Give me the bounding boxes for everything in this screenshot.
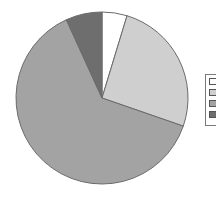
chart-legend bbox=[205, 74, 216, 126]
legend-swatch-3 bbox=[209, 100, 216, 107]
legend-swatch-2 bbox=[209, 89, 216, 96]
pie-plot bbox=[0, 0, 216, 197]
legend-swatch-4 bbox=[209, 111, 216, 118]
legend-swatch-1 bbox=[209, 78, 216, 85]
pie-chart bbox=[0, 0, 216, 197]
